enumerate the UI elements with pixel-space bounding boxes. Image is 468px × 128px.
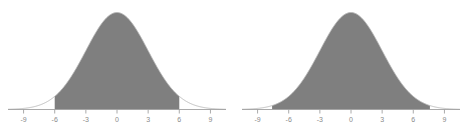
x-axis-left: -9-6-30369 xyxy=(8,110,226,123)
tick-marks xyxy=(258,110,445,114)
tick-label: 9 xyxy=(208,116,212,123)
shaded-area-right xyxy=(272,13,430,110)
shaded-area-left xyxy=(55,13,180,110)
normal-curve-chart-right: -9-6-30369 xyxy=(234,0,468,128)
tick-label: -9 xyxy=(20,116,26,123)
chart-panel-right: -9-6-30369 xyxy=(234,0,468,128)
tick-marks xyxy=(24,110,211,114)
tick-label: -3 xyxy=(83,116,89,123)
tick-labels: -9-6-30369 xyxy=(254,116,446,123)
tick-labels: -9-6-30369 xyxy=(20,116,212,123)
tick-label: 0 xyxy=(115,116,119,123)
tick-label: -6 xyxy=(286,116,292,123)
tick-label: 3 xyxy=(380,116,384,123)
tick-label: 6 xyxy=(411,116,415,123)
tick-label: 3 xyxy=(146,116,150,123)
tick-label: -6 xyxy=(52,116,58,123)
tick-label: -3 xyxy=(317,116,323,123)
tick-label: 9 xyxy=(442,116,446,123)
tick-label: 6 xyxy=(177,116,181,123)
tick-label: -9 xyxy=(254,116,260,123)
normal-distribution-figure: -9-6-30369 -9-6-30369 xyxy=(0,0,468,128)
normal-curve-chart-left: -9-6-30369 xyxy=(0,0,234,128)
x-axis-right: -9-6-30369 xyxy=(242,110,460,123)
chart-panel-left: -9-6-30369 xyxy=(0,0,234,128)
tick-label: 0 xyxy=(349,116,353,123)
